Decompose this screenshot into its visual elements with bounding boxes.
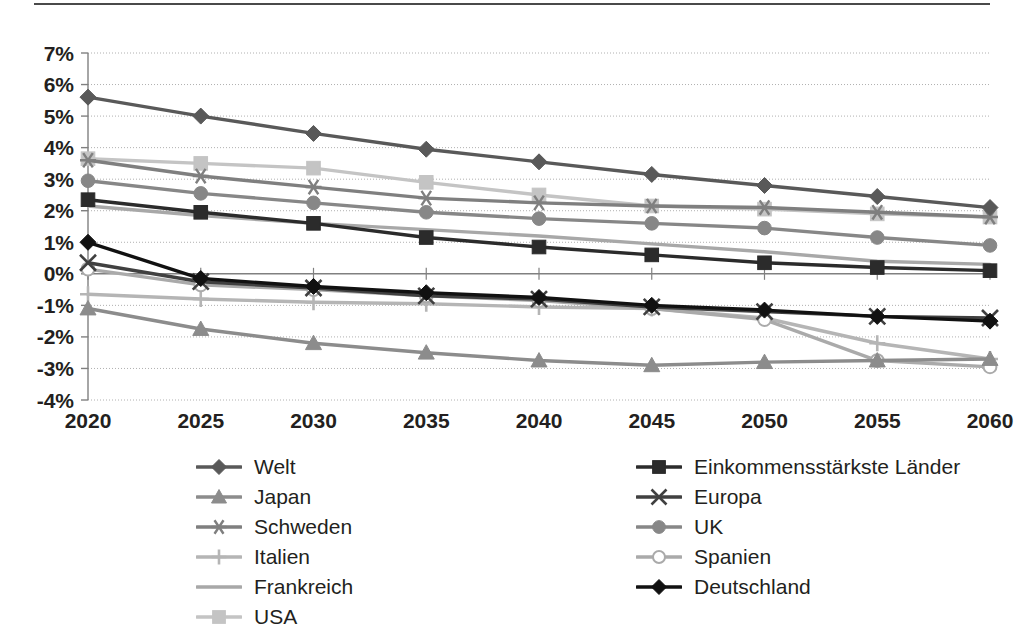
data-point-marker — [653, 521, 666, 534]
data-point-marker — [193, 108, 209, 124]
x-axis-tick-label: 2055 — [854, 409, 901, 432]
data-point-marker — [757, 177, 773, 193]
legend-item-label: Deutschland — [694, 576, 811, 598]
data-point-marker — [645, 217, 659, 231]
legend-item[interactable]: Welt — [196, 452, 353, 482]
legend-item[interactable]: USA — [196, 602, 353, 632]
legend-column-right: Einkommensstärkste LänderEuropaUKSpanien… — [636, 452, 960, 602]
x-axis-tick-label: 2050 — [741, 409, 788, 432]
data-point-marker — [194, 206, 208, 220]
data-point-marker — [870, 231, 884, 245]
legend-swatch-icon — [196, 456, 242, 478]
data-point-marker — [306, 125, 322, 141]
data-point-marker — [532, 188, 546, 202]
data-point-marker — [80, 89, 96, 105]
data-series-group — [80, 89, 998, 373]
y-axis-tick-label: -2% — [37, 325, 75, 348]
data-point-marker — [983, 264, 997, 278]
data-point-marker — [419, 176, 433, 190]
data-point-marker — [869, 189, 885, 205]
legend-swatch-icon — [196, 546, 242, 568]
legend-item-label: Schweden — [254, 516, 352, 538]
legend-swatch-icon — [636, 456, 682, 478]
data-point-marker — [870, 261, 884, 275]
chart-legend: WeltJapanSchwedenItalienFrankreichUSA Ei… — [0, 452, 1022, 632]
data-point-marker — [212, 520, 227, 534]
legend-item-label: Japan — [254, 486, 311, 508]
data-point-marker — [194, 187, 208, 201]
data-point-marker — [307, 161, 321, 175]
legend-item[interactable]: Italien — [196, 542, 353, 572]
y-axis-labels-group: 7%6%5%4%3%2%1%0%-1%-2%-3%-4% — [37, 42, 75, 412]
data-point-marker — [418, 191, 434, 205]
data-point-marker — [418, 141, 434, 157]
data-point-marker — [758, 256, 772, 270]
data-point-marker — [81, 174, 95, 188]
legend-item-label: USA — [254, 606, 297, 628]
data-point-marker — [80, 234, 96, 250]
axis-lines-group — [88, 53, 990, 400]
legend-marker-icon — [196, 486, 242, 508]
legend-swatch-icon — [636, 516, 682, 538]
legend-item-label: Welt — [254, 456, 296, 478]
legend-swatch-icon — [636, 546, 682, 568]
legend-swatch-icon — [196, 486, 242, 508]
data-point-marker — [81, 193, 95, 207]
data-point-marker — [419, 231, 433, 245]
legend-swatch-icon — [196, 516, 242, 538]
data-point-marker — [193, 169, 209, 183]
y-axis-tick-label: 2% — [44, 199, 75, 222]
data-point-marker — [645, 248, 659, 262]
data-point-marker — [193, 291, 209, 307]
legend-item[interactable]: Japan — [196, 482, 353, 512]
legend-swatch-icon — [196, 576, 242, 598]
legend-marker-icon — [196, 516, 242, 538]
y-axis-tick-label: -3% — [37, 357, 75, 380]
x-axis-tick-label: 2025 — [177, 409, 224, 432]
data-point-marker — [194, 157, 208, 171]
legend-item[interactable]: Frankreich — [196, 572, 353, 602]
legend-marker-icon — [636, 576, 682, 598]
y-axis-tick-label: 0% — [44, 262, 75, 285]
data-point-marker — [306, 180, 322, 194]
legend-item[interactable]: UK — [636, 512, 960, 542]
data-point-marker — [532, 212, 546, 226]
legend-swatch-icon — [636, 576, 682, 598]
legend-item-label: Spanien — [694, 546, 771, 568]
y-axis-tick-label: 7% — [44, 42, 75, 65]
legend-item-label: UK — [694, 516, 723, 538]
data-point-marker — [653, 551, 665, 563]
gridlines-group — [88, 53, 990, 400]
legend-swatch-icon — [196, 606, 242, 628]
legend-marker-icon — [636, 546, 682, 568]
legend-item[interactable]: Deutschland — [636, 572, 960, 602]
legend-marker-icon — [196, 546, 242, 568]
y-axis-tick-label: 5% — [44, 105, 75, 128]
legend-item[interactable]: Einkommensstärkste Länder — [636, 452, 960, 482]
x-axis-tick-label: 2020 — [65, 409, 112, 432]
x-axis-tick-label: 2040 — [516, 409, 563, 432]
legend-item-label: Europa — [694, 486, 762, 508]
legend-marker-icon — [196, 606, 242, 628]
legend-item-label: Frankreich — [254, 576, 353, 598]
data-point-marker — [307, 196, 321, 210]
legend-marker-icon — [196, 456, 242, 478]
x-axis-labels-group: 202020252030203520402045205020552060 — [65, 409, 1014, 432]
data-point-marker — [652, 580, 667, 595]
data-point-marker — [644, 166, 660, 182]
data-point-marker — [982, 313, 998, 329]
x-axis-tick-label: 2035 — [403, 409, 450, 432]
legend-item[interactable]: Europa — [636, 482, 960, 512]
legend-marker-icon — [196, 576, 242, 598]
y-axis-tick-label: 4% — [44, 136, 75, 159]
data-point-marker — [212, 550, 227, 565]
legend-item[interactable]: Spanien — [636, 542, 960, 572]
data-point-marker — [758, 221, 772, 235]
legend-marker-icon — [636, 516, 682, 538]
data-point-marker — [653, 461, 666, 474]
data-point-marker — [213, 611, 226, 624]
legend-swatch-icon — [636, 486, 682, 508]
y-axis-tick-label: 1% — [44, 231, 75, 254]
legend-item[interactable]: Schweden — [196, 512, 353, 542]
data-point-marker — [983, 239, 997, 253]
